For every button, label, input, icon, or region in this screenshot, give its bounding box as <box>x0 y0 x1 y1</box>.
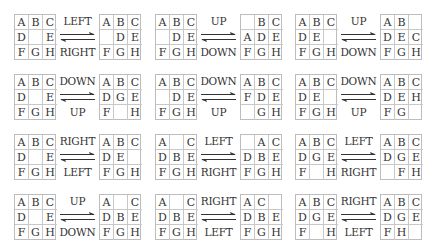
tile-cell: A <box>156 195 170 210</box>
tile-cell: G <box>255 105 269 120</box>
move-arrows: RIGHTLEFT <box>337 194 380 240</box>
backward-move-label: RIGHT <box>195 166 242 179</box>
tile-cell: A <box>296 15 310 30</box>
tile-cell: B <box>255 15 269 30</box>
tile-cell: C <box>128 195 142 210</box>
tile-cell: B <box>29 15 43 30</box>
harpoon-arrows-icon <box>340 149 377 165</box>
move-arrows: LEFTRIGHT <box>56 14 99 60</box>
tile-cell: F <box>241 225 255 240</box>
tile-cell: A <box>241 30 255 45</box>
tile-cell: B <box>170 15 184 30</box>
tile-cell: F <box>100 45 114 60</box>
backward-move-label: UP <box>335 106 382 119</box>
harpoon-arrows-icon <box>200 89 237 105</box>
start-state-grid: ABCDGEFH <box>295 194 337 240</box>
tile-cell: G <box>395 210 409 225</box>
tile-cell: A <box>255 135 269 150</box>
tile-cell: B <box>29 195 43 210</box>
tile-cell: E <box>310 30 324 45</box>
blank-cell <box>156 30 170 45</box>
blank-cell <box>128 150 142 165</box>
start-state-grid: ABCDEFGH <box>155 14 197 60</box>
move-arrows: UPDOWN <box>337 14 380 60</box>
move-arrows: DOWNUP <box>337 74 380 120</box>
tile-cell: B <box>255 150 269 165</box>
tile-cell: E <box>184 30 198 45</box>
tile-cell: B <box>310 195 324 210</box>
blank-cell <box>170 135 184 150</box>
tile-cell: H <box>128 225 142 240</box>
harpoon-arrows-icon <box>200 209 237 225</box>
end-state-grid: BCADEFGH <box>240 14 282 60</box>
tile-cell: G <box>310 105 324 120</box>
tile-cell: A <box>15 15 29 30</box>
tile-cell: D <box>381 150 395 165</box>
transition-10: ABCDEFGHACDBEFGHUPDOWN <box>14 194 144 240</box>
tile-cell: A <box>156 135 170 150</box>
tile-cell: B <box>114 135 128 150</box>
tile-cell: D <box>241 210 255 225</box>
tile-cell: B <box>310 75 324 90</box>
start-state-grid: ABCDEFGH <box>14 194 56 240</box>
tile-cell: G <box>255 225 269 240</box>
tile-cell: D <box>15 210 29 225</box>
forward-move-label: RIGHT <box>54 135 101 148</box>
forward-move-label: RIGHT <box>335 195 382 208</box>
blank-cell <box>241 135 255 150</box>
tile-cell: C <box>128 15 142 30</box>
blank-cell <box>409 105 423 120</box>
tile-cell: H <box>409 165 423 180</box>
tile-cell: E <box>43 90 57 105</box>
tile-cell: D <box>255 30 269 45</box>
tile-cell: G <box>255 165 269 180</box>
tile-cell: E <box>269 30 283 45</box>
harpoon-arrows-icon <box>59 209 96 225</box>
blank-cell <box>409 15 423 30</box>
transition-1: ABCDEFGHABCDEFGHLEFTRIGHT <box>14 14 144 60</box>
tile-cell: A <box>100 135 114 150</box>
tile-cell: B <box>114 75 128 90</box>
tile-cell: E <box>310 90 324 105</box>
tile-cell: E <box>114 150 128 165</box>
backward-move-label: RIGHT <box>54 46 101 59</box>
transition-8: ACDBEFGHACDBEFGHLEFTRIGHT <box>155 134 285 180</box>
tile-cell: A <box>296 75 310 90</box>
blank-cell <box>29 30 43 45</box>
tile-cell: G <box>310 210 324 225</box>
backward-move-label: RIGHT <box>335 166 382 179</box>
end-state-grid: ABCDGEFH <box>99 74 141 120</box>
move-arrows: DOWNUP <box>56 74 99 120</box>
forward-move-label: UP <box>335 15 382 28</box>
tile-cell: D <box>381 210 395 225</box>
harpoon-arrows-icon <box>59 149 96 165</box>
blank-cell <box>409 225 423 240</box>
tile-cell: D <box>296 90 310 105</box>
harpoon-arrows-icon <box>340 89 377 105</box>
transition-3: ABCDEFGHABDECFGHUPDOWN <box>295 14 425 60</box>
move-arrows: RIGHTLEFT <box>56 134 99 180</box>
transition-7: ABCDEFGHABCDEFGHRIGHTLEFT <box>14 134 144 180</box>
tile-cell: B <box>310 15 324 30</box>
backward-move-label: LEFT <box>195 226 242 239</box>
blank-cell <box>114 105 128 120</box>
start-state-grid: ACDBEFGH <box>155 134 197 180</box>
harpoon-arrows-icon <box>340 209 377 225</box>
backward-move-label: LEFT <box>54 166 101 179</box>
forward-move-label: DOWN <box>54 75 101 88</box>
tile-cell: E <box>269 210 283 225</box>
blank-cell <box>269 195 283 210</box>
tile-cell: D <box>170 30 184 45</box>
tile-cell: A <box>381 75 395 90</box>
transition-6: ABCDEFGHABCDEHFGDOWNUP <box>295 74 425 120</box>
blank-cell <box>29 210 43 225</box>
end-state-grid: ACDBEFGH <box>99 194 141 240</box>
tile-cell: D <box>296 30 310 45</box>
tile-cell: G <box>114 225 128 240</box>
tile-cell: E <box>128 210 142 225</box>
tile-cell: E <box>409 210 423 225</box>
tile-cell: A <box>241 75 255 90</box>
tile-cell: D <box>100 210 114 225</box>
tile-cell: B <box>114 210 128 225</box>
tile-cell: B <box>29 75 43 90</box>
